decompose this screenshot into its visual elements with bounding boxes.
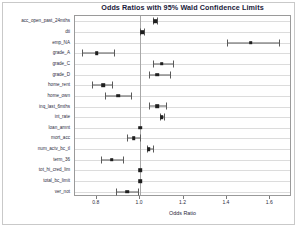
odds-ratio-marker (156, 73, 160, 77)
ci-lower-cap (127, 135, 128, 142)
data-row (75, 101, 290, 112)
plot-inner (75, 16, 290, 195)
odds-ratio-marker (101, 83, 105, 87)
data-row (75, 154, 290, 165)
ci-lower-cap (101, 156, 102, 163)
ci-lower-cap (227, 39, 228, 46)
data-row (75, 69, 290, 80)
odds-ratio-marker (156, 105, 160, 109)
ci-upper-cap (123, 156, 124, 163)
y-axis-label: home_own (48, 92, 70, 97)
y-axis-label: term_36 (53, 156, 70, 161)
ci-lower-cap (116, 188, 117, 195)
y-axis-label: total_bc_limit (43, 178, 70, 183)
chart-title: Odds Ratios with 95% Wald Confidence Lim… (74, 3, 291, 12)
data-row (75, 133, 290, 144)
ci-upper-cap (153, 146, 154, 153)
y-axis-label: grade_C (52, 60, 70, 65)
ci-upper-cap (173, 60, 174, 67)
ci-upper-cap (114, 50, 115, 57)
y-axis-label: acc_open_past_24mths (21, 18, 70, 23)
y-axis-label: ver_not (55, 188, 70, 193)
data-row (75, 122, 290, 133)
odds-ratio-marker (138, 126, 142, 130)
ci-lower-cap (92, 82, 93, 89)
ci-upper-cap (164, 114, 165, 121)
x-tick-label: 1.6 (266, 199, 273, 205)
ci-upper-cap (144, 28, 145, 35)
odds-ratio-plot: Odds Ratios with 95% Wald Confidence Lim… (0, 0, 297, 227)
odds-ratio-marker (138, 179, 142, 183)
odds-ratio-marker (147, 147, 151, 151)
y-axis-label: loan_amnt (49, 124, 70, 129)
odds-ratio-marker (140, 30, 144, 34)
data-row (75, 112, 290, 123)
y-axis-label: inq_last_6mths (39, 103, 70, 108)
data-row (75, 80, 290, 91)
odds-ratio-marker (132, 137, 136, 141)
y-axis-label: grade_D (52, 71, 70, 76)
plot-area (74, 15, 291, 196)
data-row (75, 144, 290, 155)
odds-ratio-marker (110, 158, 114, 162)
odds-ratio-marker (249, 41, 253, 45)
x-tick-label: 0.8 (92, 199, 99, 205)
odds-ratio-marker (160, 115, 164, 119)
y-axis-label: dti (65, 28, 70, 33)
x-axis-ticks: 0.81.01.21.41.6 (74, 196, 291, 208)
ci-lower-cap (149, 71, 150, 78)
odds-ratio-marker (160, 62, 164, 66)
x-tick-label: 1.4 (222, 199, 229, 205)
ci-lower-cap (105, 92, 106, 99)
y-axis-label: tot_hi_cred_lim (39, 167, 70, 172)
data-row (75, 59, 290, 70)
y-axis-label: emp_NA (52, 39, 70, 44)
y-axis-label: num_actv_bc_tl (38, 146, 70, 151)
ci-upper-cap (279, 39, 280, 46)
ci-lower-cap (82, 50, 83, 57)
ci-upper-cap (112, 82, 113, 89)
odds-ratio-marker (125, 190, 129, 194)
y-axis-label: int_rate (55, 114, 70, 119)
data-row (75, 16, 290, 27)
data-row (75, 165, 290, 176)
y-axis-labels: acc_open_past_24mthsdtiemp_NAgrade_Agrad… (0, 15, 72, 196)
ci-upper-cap (131, 92, 132, 99)
data-row (75, 37, 290, 48)
y-axis-label: grade_A (53, 50, 70, 55)
confidence-interval-line (227, 42, 279, 43)
y-axis-label: home_rent (48, 82, 70, 87)
ci-upper-cap (170, 71, 171, 78)
data-row (75, 176, 290, 187)
odds-ratio-marker (153, 20, 157, 24)
odds-ratio-marker (138, 169, 142, 173)
odds-ratio-marker (117, 94, 121, 98)
ci-upper-cap (140, 135, 141, 142)
x-tick-label: 1.0 (136, 199, 143, 205)
confidence-interval-line (149, 74, 171, 75)
data-row (75, 48, 290, 59)
x-tick-label: 1.2 (179, 199, 186, 205)
odds-ratio-marker (95, 51, 99, 55)
ci-upper-cap (166, 103, 167, 110)
data-row (75, 91, 290, 102)
x-axis-title: Odds Ratio (74, 210, 291, 216)
ci-upper-cap (138, 188, 139, 195)
ci-lower-cap (149, 103, 150, 110)
data-row (75, 27, 290, 38)
ci-upper-cap (157, 18, 158, 25)
ci-lower-cap (153, 60, 154, 67)
y-axis-label: mort_acc (51, 135, 70, 140)
